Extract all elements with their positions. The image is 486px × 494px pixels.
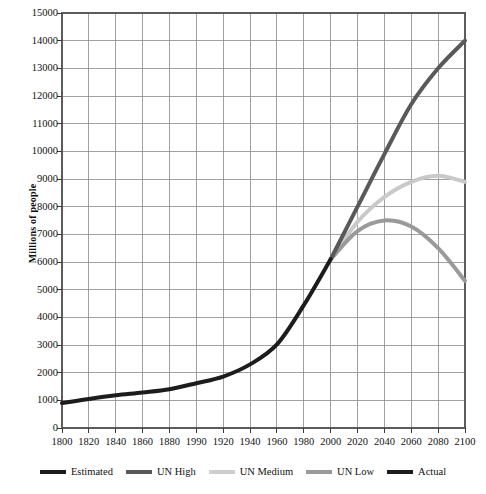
legend-item: UN High bbox=[126, 466, 196, 477]
legend-label: Actual bbox=[418, 466, 446, 477]
legend-swatch-icon bbox=[306, 470, 332, 474]
legend-label: Estimated bbox=[71, 466, 113, 477]
legend-item: UN Medium bbox=[209, 466, 293, 477]
legend-label: UN Medium bbox=[240, 466, 293, 477]
chart-legend: EstimatedUN HighUN MediumUN LowActual bbox=[0, 466, 486, 477]
population-projection-chart: Millions of people 010002000300040005000… bbox=[0, 0, 486, 494]
x-axis-tick-labels: 1800182018401860188019901920194019601980… bbox=[0, 0, 486, 494]
legend-swatch-icon bbox=[209, 470, 235, 474]
legend-swatch-icon bbox=[126, 470, 152, 474]
legend-swatch-icon bbox=[40, 470, 66, 474]
legend-swatch-icon bbox=[387, 470, 413, 474]
x-tick-label: 2100 bbox=[445, 436, 485, 447]
legend-label: UN High bbox=[157, 466, 196, 477]
legend-item: Estimated bbox=[40, 466, 113, 477]
legend-label: UN Low bbox=[337, 466, 374, 477]
legend-item: UN Low bbox=[306, 466, 374, 477]
legend-item: Actual bbox=[387, 466, 446, 477]
